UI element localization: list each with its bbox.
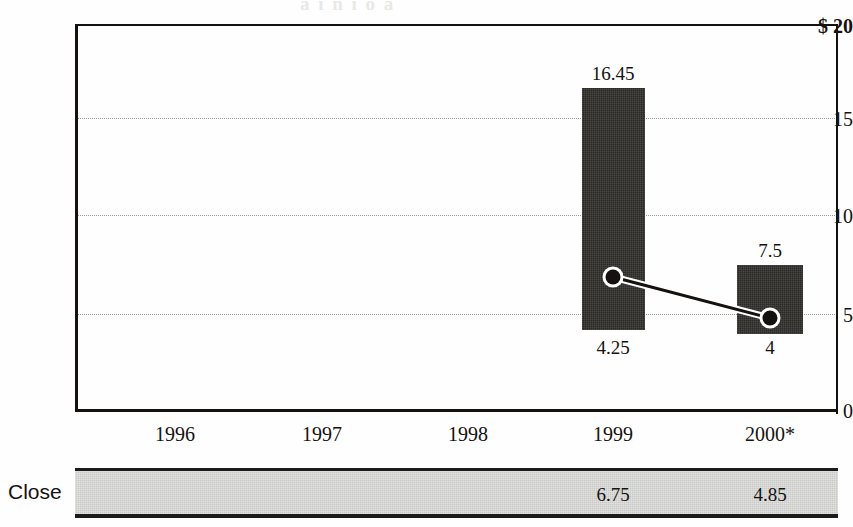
range-bar-1999 [582,88,645,330]
y-axis-tick-0: 0 [785,401,853,421]
plot-area [75,24,838,412]
bar-high-label-1999: 16.45 [592,64,635,83]
x-axis-tick-1999: 1999 [593,424,633,444]
bar-low-label-1999: 4.25 [596,338,629,357]
close-row-label: Close [8,481,62,502]
bar-high-label-2000: 7.5 [758,241,782,260]
y-axis-tick-15: 15 [785,109,853,129]
x-axis-tick-1998: 1998 [448,424,488,444]
y-axis-tick-20: $ 20 [785,16,853,36]
bar-low-label-2000: 4 [765,338,775,357]
x-axis-tick-2000: 2000* [745,424,795,444]
x-axis-tick-1997: 1997 [302,424,342,444]
close-value-1999: 6.75 [596,485,629,504]
close-value-2000: 4.85 [753,485,786,504]
gridline-10 [78,215,836,216]
x-axis-tick-1996: 1996 [155,424,195,444]
range-bar-2000 [737,265,803,334]
chart-canvas: a i n i o a $ 20 15 10 5 0 16.45 4.25 7.… [0,0,853,527]
page-bleed-artifact: a i n i o a [300,0,395,15]
gridline-5 [78,314,836,315]
close-summary-band [75,468,838,518]
y-axis-tick-10: 10 [785,206,853,226]
gridline-15 [78,118,836,119]
